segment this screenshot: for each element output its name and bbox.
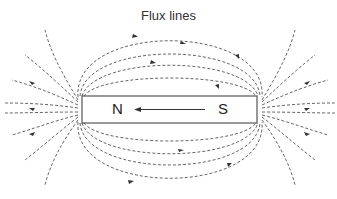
flux-diagram bbox=[0, 0, 337, 199]
north-pole-label: N bbox=[112, 100, 123, 117]
south-pole-label: S bbox=[218, 100, 228, 117]
